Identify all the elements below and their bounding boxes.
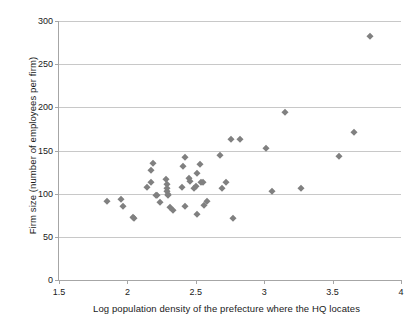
y-tick-mark bbox=[55, 107, 59, 108]
y-tick-label: 150 bbox=[38, 146, 53, 156]
gridline-y-50 bbox=[59, 237, 401, 238]
x-tick-mark bbox=[401, 280, 402, 284]
y-tick-label: 250 bbox=[38, 59, 53, 69]
scatter-chart: Firm size (number of employees per firm)… bbox=[0, 0, 413, 325]
x-tick-label: 2.5 bbox=[190, 287, 203, 297]
data-point bbox=[236, 136, 242, 142]
y-tick-mark bbox=[55, 151, 59, 152]
y-tick-mark bbox=[55, 64, 59, 65]
data-point bbox=[182, 203, 188, 209]
gridline-y-300 bbox=[59, 21, 401, 22]
x-tick-label: 3.5 bbox=[326, 287, 339, 297]
data-point bbox=[366, 32, 372, 38]
data-point bbox=[187, 177, 193, 183]
data-point bbox=[228, 136, 234, 142]
gridline-y-250 bbox=[59, 64, 401, 65]
data-point bbox=[131, 215, 137, 221]
data-point bbox=[150, 159, 156, 165]
data-point bbox=[104, 197, 110, 203]
data-point bbox=[157, 199, 163, 205]
data-point bbox=[336, 152, 342, 158]
data-point bbox=[351, 128, 357, 134]
data-point bbox=[154, 191, 160, 197]
y-axis-title: Firm size (number of employees per firm) bbox=[27, 26, 38, 266]
x-tick-mark bbox=[59, 280, 60, 284]
data-point bbox=[217, 152, 223, 158]
y-tick-mark bbox=[55, 237, 59, 238]
data-point bbox=[120, 203, 126, 209]
x-axis-title: Log population density of the prefecture… bbox=[40, 303, 413, 314]
x-tick-label: 3 bbox=[262, 287, 267, 297]
data-point bbox=[194, 170, 200, 176]
data-point bbox=[143, 184, 149, 190]
x-tick-label: 4 bbox=[398, 287, 403, 297]
data-point bbox=[117, 196, 123, 202]
data-point bbox=[165, 191, 171, 197]
data-point bbox=[194, 210, 200, 216]
y-tick-mark bbox=[55, 194, 59, 195]
data-point bbox=[219, 184, 225, 190]
y-tick-label: 0 bbox=[48, 275, 53, 285]
data-point bbox=[298, 184, 304, 190]
gridline-y-200 bbox=[59, 107, 401, 108]
data-point bbox=[281, 108, 287, 114]
x-tick-label: 1.5 bbox=[53, 287, 66, 297]
data-point bbox=[229, 215, 235, 221]
x-tick-mark bbox=[127, 280, 128, 284]
data-point bbox=[197, 161, 203, 167]
y-tick-label: 100 bbox=[38, 189, 53, 199]
plot-area: 050100150200250300 1.522.533.54 bbox=[58, 21, 401, 280]
y-tick-label: 300 bbox=[38, 16, 53, 26]
gridline-y-150 bbox=[59, 151, 401, 152]
data-point bbox=[179, 184, 185, 190]
y-tick-label: 50 bbox=[43, 232, 53, 242]
x-tick-mark bbox=[264, 280, 265, 284]
gridline-y-100 bbox=[59, 194, 401, 195]
x-tick-mark bbox=[333, 280, 334, 284]
data-point bbox=[180, 163, 186, 169]
x-tick-label: 2 bbox=[125, 287, 130, 297]
data-point bbox=[147, 167, 153, 173]
data-point bbox=[182, 154, 188, 160]
y-tick-mark bbox=[55, 21, 59, 22]
x-tick-mark bbox=[196, 280, 197, 284]
x-axis-line bbox=[59, 280, 401, 281]
y-tick-label: 200 bbox=[38, 102, 53, 112]
data-point bbox=[223, 178, 229, 184]
data-point bbox=[169, 207, 175, 213]
